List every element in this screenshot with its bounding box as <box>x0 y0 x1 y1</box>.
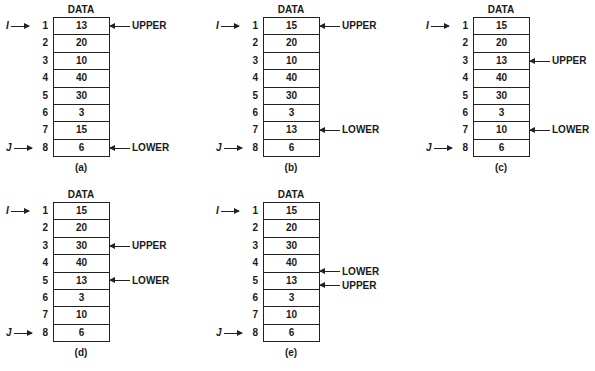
row-index: 1 <box>246 20 258 31</box>
row-index: 3 <box>246 55 258 66</box>
row-index: 7 <box>246 124 258 135</box>
array-cell: 3 <box>264 105 319 122</box>
lower-pointer: LOWER <box>320 266 379 277</box>
right-arrow-icon <box>434 148 452 149</box>
right-arrow-icon <box>221 26 239 27</box>
array-cell: 15 <box>264 18 319 35</box>
row-index: 4 <box>36 257 48 268</box>
array-cell: 13 <box>54 273 109 290</box>
panel-e: DATA1520304013310612345678IJLOWERUPPER(e… <box>210 185 410 370</box>
j-pointer: J <box>6 327 32 338</box>
row-index: 1 <box>36 20 48 31</box>
array-cell: 15 <box>54 203 109 220</box>
j-label: J <box>216 142 222 153</box>
right-arrow-icon <box>431 26 449 27</box>
right-arrow-icon <box>14 333 32 334</box>
row-index: 5 <box>36 275 48 286</box>
row-index: 5 <box>36 90 48 101</box>
j-label: J <box>6 327 12 338</box>
array-cell: 40 <box>54 70 109 87</box>
array-cell: 6 <box>264 140 319 156</box>
array-cell: 6 <box>264 325 319 341</box>
array-cell: 20 <box>264 35 319 52</box>
array-cell: 13 <box>54 18 109 35</box>
array-cell: 40 <box>264 255 319 272</box>
array-cell: 3 <box>54 290 109 307</box>
array-cell: 3 <box>54 105 109 122</box>
row-index: 1 <box>36 205 48 216</box>
array-cell: 3 <box>474 105 529 122</box>
lower-label: LOWER <box>132 142 169 153</box>
array-cell: 15 <box>474 18 529 35</box>
row-index: 6 <box>456 107 468 118</box>
data-array: 15201340303106 <box>473 17 530 157</box>
array-cell: 30 <box>474 88 529 105</box>
row-index: 5 <box>246 90 258 101</box>
array-cell: 10 <box>474 122 529 139</box>
j-pointer: J <box>6 142 32 153</box>
row-index: 6 <box>36 292 48 303</box>
array-title: DATA <box>53 4 109 15</box>
array-title: DATA <box>263 189 319 200</box>
array-cell: 15 <box>264 203 319 220</box>
array-cell: 13 <box>264 122 319 139</box>
i-pointer: I <box>6 205 29 216</box>
upper-pointer: UPPER <box>320 20 376 31</box>
array-cell: 30 <box>264 88 319 105</box>
row-index: 2 <box>36 222 48 233</box>
array-cell: 10 <box>264 307 319 324</box>
row-index: 7 <box>246 309 258 320</box>
j-pointer: J <box>426 142 452 153</box>
panel-a: DATA1320104030315612345678IJUPPERLOWER(a… <box>0 0 200 185</box>
upper-label: UPPER <box>132 240 166 251</box>
array-cell: 30 <box>264 238 319 255</box>
array-cell: 20 <box>54 220 109 237</box>
j-label: J <box>426 142 432 153</box>
lower-pointer: LOWER <box>320 124 379 135</box>
row-index: 5 <box>456 90 468 101</box>
row-index: 4 <box>456 72 468 83</box>
row-index: 3 <box>36 55 48 66</box>
i-label: I <box>216 20 219 31</box>
row-index: 4 <box>246 72 258 83</box>
data-array: 15203040133106 <box>263 202 320 342</box>
row-index: 8 <box>246 327 258 338</box>
right-arrow-icon <box>11 26 29 27</box>
i-pointer: I <box>216 20 239 31</box>
upper-pointer: UPPER <box>110 20 166 31</box>
array-cell: 6 <box>54 325 109 341</box>
right-arrow-icon <box>224 333 242 334</box>
left-arrow-icon <box>530 61 550 62</box>
array-title: DATA <box>473 4 529 15</box>
lower-label: LOWER <box>132 275 169 286</box>
row-index: 3 <box>456 55 468 66</box>
row-index: 3 <box>36 240 48 251</box>
array-cell: 15 <box>54 122 109 139</box>
array-cell: 20 <box>264 220 319 237</box>
panel-b: DATA1520104030313612345678IJUPPERLOWER(b… <box>210 0 410 185</box>
row-index: 8 <box>456 142 468 153</box>
row-index: 7 <box>36 124 48 135</box>
panel-d: DATA1520304013310612345678IJUPPERLOWER(d… <box>0 185 200 370</box>
panel-caption: (b) <box>263 162 319 173</box>
array-cell: 30 <box>54 88 109 105</box>
row-index: 6 <box>246 292 258 303</box>
lower-pointer: LOWER <box>110 142 169 153</box>
left-arrow-icon <box>110 26 130 27</box>
row-index: 7 <box>456 124 468 135</box>
upper-pointer: UPPER <box>530 55 586 66</box>
upper-label: UPPER <box>132 20 166 31</box>
upper-label: UPPER <box>552 55 586 66</box>
row-index: 1 <box>456 20 468 31</box>
j-pointer: J <box>216 142 242 153</box>
lower-pointer: LOWER <box>530 124 589 135</box>
array-cell: 6 <box>474 140 529 156</box>
i-pointer: I <box>6 20 29 31</box>
left-arrow-icon <box>530 130 550 131</box>
array-cell: 10 <box>54 53 109 70</box>
i-label: I <box>216 205 219 216</box>
left-arrow-icon <box>110 246 130 247</box>
left-arrow-icon <box>320 130 340 131</box>
panel-c: DATA1520134030310612345678IJUPPERLOWER(c… <box>420 0 595 185</box>
row-index: 2 <box>246 37 258 48</box>
